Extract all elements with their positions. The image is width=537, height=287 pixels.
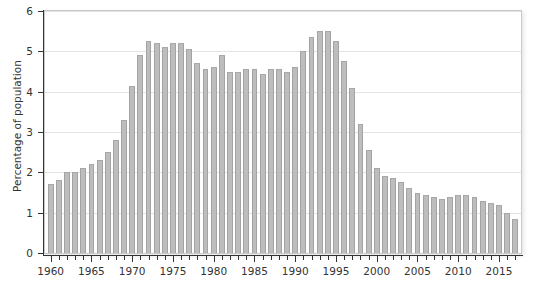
x-tick-mark-1981 (222, 256, 223, 260)
x-tick-mark-1992 (312, 256, 313, 260)
x-tick-label: 1960 (31, 266, 71, 277)
x-tick-mark-1980 (214, 256, 215, 262)
x-tick-mark-2007 (434, 256, 435, 260)
x-tick-mark-1965 (91, 256, 92, 262)
x-tick-mark-1968 (116, 256, 117, 260)
x-tick-label: 2010 (438, 266, 478, 277)
x-tick-mark-2017 (515, 256, 516, 260)
x-tick-mark-1986 (263, 256, 264, 260)
x-tick-mark-1984 (246, 256, 247, 260)
x-tick-mark-2015 (499, 256, 500, 262)
x-tick-mark-1991 (303, 256, 304, 260)
x-tick-mark-2001 (385, 256, 386, 260)
x-tick-mark-1985 (254, 256, 255, 262)
chart-figure: Percentage of population 0123456 1960196… (0, 0, 537, 287)
x-tick-mark-2008 (442, 256, 443, 260)
x-tick-mark-1996 (344, 256, 345, 260)
x-tick-mark-1994 (328, 256, 329, 260)
x-tick-label: 2000 (357, 266, 397, 277)
x-tick-mark-2010 (458, 256, 459, 262)
x-tick-mark-1979 (206, 256, 207, 260)
x-tick-mark-1999 (369, 256, 370, 260)
x-tick-mark-1974 (165, 256, 166, 260)
x-tick-label: 2015 (479, 266, 519, 277)
x-tick-mark-1993 (320, 256, 321, 260)
x-tick-mark-1983 (238, 256, 239, 260)
x-tick-mark-1975 (173, 256, 174, 262)
x-tick-mark-2002 (393, 256, 394, 260)
x-tick-label: 1970 (112, 266, 152, 277)
x-tick-mark-1990 (295, 256, 296, 262)
x-tick-mark-2005 (417, 256, 418, 262)
x-tick-mark-1998 (360, 256, 361, 260)
x-tick-mark-2004 (409, 256, 410, 260)
x-tick-label: 1975 (153, 266, 193, 277)
x-tick-mark-1977 (189, 256, 190, 260)
x-tick-mark-1967 (108, 256, 109, 260)
x-tick-mark-1969 (124, 256, 125, 260)
x-tick-mark-1971 (140, 256, 141, 260)
x-tick-label: 2005 (397, 266, 437, 277)
x-tick-mark-1982 (230, 256, 231, 260)
x-tick-mark-1973 (157, 256, 158, 260)
x-tick-mark-1995 (336, 256, 337, 262)
x-tick-mark-1966 (100, 256, 101, 260)
x-tick-mark-2014 (491, 256, 492, 260)
x-tick-mark-1972 (149, 256, 150, 260)
x-tick-mark-2000 (377, 256, 378, 262)
x-tick-label: 1965 (71, 266, 111, 277)
x-tick-mark-1989 (287, 256, 288, 260)
x-tick-label: 1995 (316, 266, 356, 277)
x-axis-ticks: 1960196519701975198019851990199520002005… (0, 0, 537, 287)
x-tick-mark-1961 (59, 256, 60, 260)
x-tick-label: 1990 (275, 266, 315, 277)
x-tick-mark-1978 (197, 256, 198, 260)
x-tick-mark-1988 (279, 256, 280, 260)
x-tick-mark-2003 (401, 256, 402, 260)
x-tick-mark-1960 (51, 256, 52, 262)
x-tick-mark-2013 (483, 256, 484, 260)
x-tick-mark-2009 (450, 256, 451, 260)
x-tick-mark-1976 (181, 256, 182, 260)
x-tick-label: 1985 (234, 266, 274, 277)
x-tick-mark-1963 (75, 256, 76, 260)
x-tick-mark-1987 (271, 256, 272, 260)
x-tick-mark-1964 (83, 256, 84, 260)
x-tick-mark-2011 (466, 256, 467, 260)
x-tick-mark-1970 (132, 256, 133, 262)
x-tick-mark-1962 (67, 256, 68, 260)
x-tick-mark-2016 (507, 256, 508, 260)
x-tick-mark-1997 (352, 256, 353, 260)
x-tick-mark-2012 (475, 256, 476, 260)
x-tick-mark-2006 (426, 256, 427, 260)
x-tick-label: 1980 (194, 266, 234, 277)
